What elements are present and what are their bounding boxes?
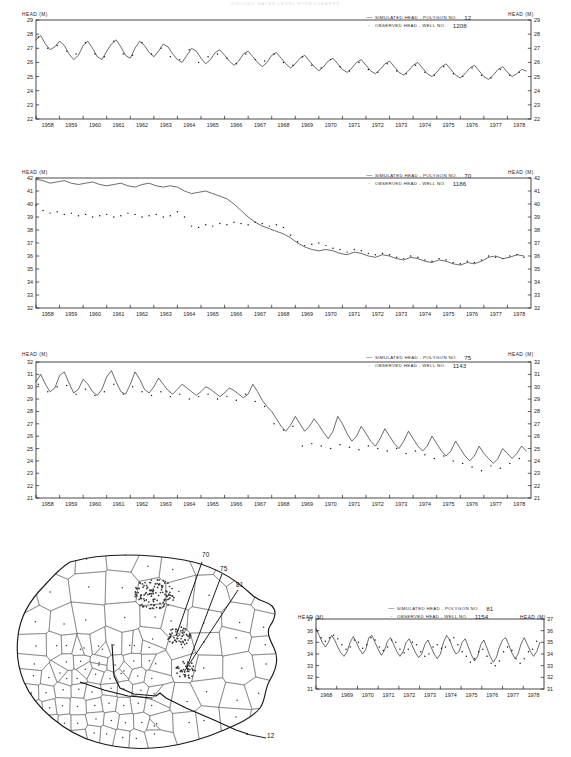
map-polygon-cell [105, 570, 139, 604]
legend-observed-label: OBSERVED HEAD - WELL NO. [375, 180, 446, 188]
y-tick-label: 32 [20, 359, 33, 365]
map-polygon-cell [231, 700, 330, 757]
x-tick-label: 1960 [89, 311, 101, 317]
y-tick-label: 22 [20, 483, 33, 489]
x-tick-label: 1960 [89, 501, 101, 507]
y-tick-label: 34 [547, 651, 553, 657]
x-tick-label: 1978 [528, 692, 540, 698]
map-polygon-cell [100, 670, 118, 685]
map-node-point [208, 595, 210, 597]
y-tick-label: 42 [534, 175, 540, 181]
simulated-head-line [36, 371, 526, 464]
y-tick-label: 22 [534, 116, 540, 122]
x-tick-label: 1959 [65, 501, 77, 507]
x-tick-label: 1966 [230, 311, 242, 317]
map-polygon-cell [49, 660, 68, 682]
legend-well-no: 1143 [453, 362, 466, 370]
y-tick-label: 35 [547, 639, 553, 645]
y-tick-label: 35 [20, 266, 33, 272]
legend-simulated-label: SIMULATED HEAD - POLYGON NO. [397, 605, 479, 613]
x-tick-label: 1966 [230, 501, 242, 507]
map-node-point [93, 732, 95, 734]
y-tick-label: 22 [20, 116, 33, 122]
y-tick-label: 25 [20, 74, 33, 80]
y-tick-label: 36 [300, 628, 313, 634]
x-tick-label: 1976 [466, 122, 478, 128]
y-tick-label: 34 [300, 651, 313, 657]
x-tick-label: 1972 [372, 122, 384, 128]
observed-head-dots [38, 36, 520, 78]
map-polygon-cell [213, 520, 250, 587]
x-tick-label: 1970 [325, 501, 337, 507]
map-node-point [83, 647, 85, 649]
map-node-point [182, 647, 184, 649]
y-tick-label: 37 [534, 240, 540, 246]
map-node-point [49, 591, 51, 593]
map-polygon-cell [243, 508, 330, 582]
map-node-point [233, 568, 235, 570]
map-node-point [64, 557, 66, 559]
x-tick-label: 1968 [320, 692, 332, 698]
x-tick-label: 1965 [207, 311, 219, 317]
chart-2-ylabel-right: HEAD (M) [508, 170, 534, 175]
map-node-point [80, 661, 82, 663]
map-node-point [62, 737, 64, 739]
map-polygon-cell [54, 682, 71, 698]
legend-simulated-label: SIMULATED HEAD - POLYGON NO. [375, 354, 457, 362]
y-tick-label: 42 [20, 175, 33, 181]
map-polygon-cell [36, 508, 79, 579]
y-tick-label: 25 [534, 74, 540, 80]
x-tick-label: 1964 [183, 122, 195, 128]
x-tick-label: 1970 [362, 692, 374, 698]
map-node-point [120, 673, 122, 675]
y-tick-label: 23 [534, 470, 540, 476]
map-node-point [154, 616, 156, 618]
x-tick-label: 1978 [513, 122, 525, 128]
map-node-point [154, 725, 156, 727]
map-polygon-cell [223, 651, 256, 685]
map-polygon-cell [90, 627, 106, 655]
x-tick-label: 1971 [348, 501, 360, 507]
map-node-point [49, 707, 51, 709]
map-node-point [98, 645, 100, 647]
map-node-point [263, 627, 265, 629]
y-tick-label: 36 [547, 628, 553, 634]
y-tick-label: 27 [534, 421, 540, 427]
map-node-point [123, 705, 125, 707]
map-polygon-cell [167, 508, 246, 575]
map-polygon-cell [0, 728, 41, 757]
legend-dot-marker: · [364, 362, 375, 370]
map-node-point [23, 599, 25, 601]
legend-simulated-label: SIMULATED HEAD - POLYGON NO. [375, 14, 457, 22]
y-tick-label: 23 [20, 102, 33, 108]
map-node-point [114, 664, 116, 666]
x-tick-label: 1974 [419, 501, 431, 507]
observed-head-dots [316, 630, 537, 666]
x-tick-label: 1975 [443, 311, 455, 317]
chart-1-legend: —SIMULATED HEAD - POLYGON NO.12 ·OBSERVE… [364, 14, 471, 29]
map-node-point [98, 662, 100, 664]
map-node-point [148, 647, 150, 649]
x-tick-label: 1973 [395, 122, 407, 128]
map-polygon-cell [131, 629, 142, 654]
map-node-point [59, 672, 61, 674]
map-polygon-cell [146, 685, 163, 700]
map-polygon-cell [8, 700, 43, 717]
map-polygon-cell [57, 714, 71, 731]
y-tick-label: 32 [20, 305, 33, 311]
map-polygon-cell [119, 661, 132, 679]
map-node-point [102, 649, 104, 651]
map-polygon-cell [75, 508, 107, 574]
map-polygon-cell [219, 682, 252, 709]
y-tick-label: 27 [534, 45, 540, 51]
y-tick-label: 29 [20, 17, 33, 23]
map-polygon-cell [0, 677, 39, 709]
x-tick-label: 1972 [403, 692, 415, 698]
map-polygon-cell [159, 512, 196, 584]
map-node-point [113, 644, 115, 646]
map-node-point [178, 591, 180, 593]
x-tick-label: 1958 [42, 501, 54, 507]
y-tick-label: 37 [547, 616, 553, 622]
legend-dot-marker: · [364, 180, 375, 188]
map-node-point [122, 737, 124, 739]
